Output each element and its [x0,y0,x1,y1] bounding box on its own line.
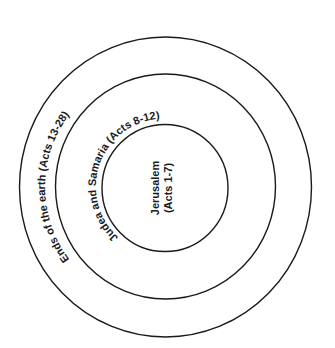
outer-ring-label: Ends of the earth (Acts 13-28) [35,108,71,265]
inner-circle-label: Jerusalem (Acts 1-7) [149,161,174,216]
inner-label-line1: Jerusalem [149,161,161,216]
concentric-circles-diagram: Ends of the earth (Acts 13-28) Judea and… [0,0,335,348]
inner-label-line2: (Acts 1-7) [162,163,174,213]
outer-ring-label-text: Ends of the earth (Acts 13-28) [35,108,71,265]
